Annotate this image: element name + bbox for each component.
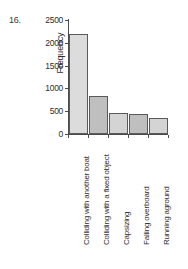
y-tick-mark (65, 111, 68, 112)
y-tick-mark (65, 66, 68, 67)
bar (109, 113, 128, 134)
x-tick-mark (148, 135, 149, 138)
x-tick-mark (168, 135, 169, 138)
bar-chart-figure: 16. Frequency 05001000150020002500 Colli… (0, 0, 188, 269)
x-category-label: Running aground (162, 187, 171, 245)
y-tick-mark (65, 43, 68, 44)
y-tick-label: 2500 (45, 15, 63, 25)
y-tick-label: 1000 (45, 83, 63, 93)
y-tick-label: 0 (59, 129, 63, 139)
y-axis-title: Frequency (55, 23, 65, 83)
bar (69, 34, 88, 134)
x-axis-line (68, 134, 168, 135)
exercise-number: 16. (9, 15, 21, 25)
x-tick-mark (128, 135, 129, 138)
x-tick-mark (108, 135, 109, 138)
y-tick-mark (65, 88, 68, 89)
y-tick-label: 2000 (45, 38, 63, 48)
x-category-label: Colliding with a fixed object (102, 154, 111, 245)
bar (129, 114, 148, 134)
plot-area: 05001000150020002500 (68, 19, 168, 135)
x-tick-mark (88, 135, 89, 138)
x-tick-mark (68, 135, 69, 138)
x-category-label: Capsizing (122, 212, 131, 245)
x-category-label: Falling overboard (142, 187, 151, 245)
y-tick-mark (65, 20, 68, 21)
bar (89, 96, 108, 134)
x-category-label: Colliding with another boat (82, 156, 91, 245)
y-tick-label: 1500 (45, 61, 63, 71)
bar (149, 118, 168, 134)
y-tick-label: 500 (50, 106, 63, 116)
